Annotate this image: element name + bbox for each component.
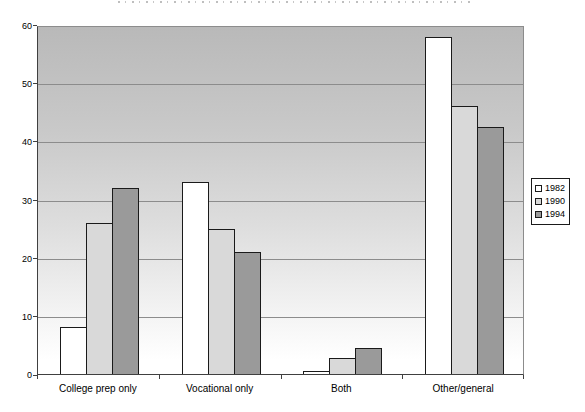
bar-1990-1 [86,223,113,374]
legend-label: 1990 [545,195,565,208]
x-category-label: College prep only [37,383,159,394]
bar-1982-2 [182,182,209,374]
bar-1990-2 [208,229,235,374]
x-tick-mark [402,375,403,379]
y-tick-label: 40 [6,137,32,147]
y-tick-mark [33,258,37,259]
y-tick-mark [33,141,37,142]
bar-1994-2 [234,252,261,374]
y-tick-label: 10 [6,312,32,322]
bar-1982-1 [60,327,87,374]
cropped-chart-title [118,1,470,3]
x-tick-mark [37,375,38,379]
plot-area [37,26,524,375]
legend: 198219901994 [531,178,570,225]
bar-1990-4 [451,106,478,374]
x-tick-mark [523,375,524,379]
bar-group-3 [282,348,404,374]
legend-item-1990: 1990 [535,195,565,208]
bar-1994-1 [112,188,139,374]
legend-item-1982: 1982 [535,182,565,195]
legend-item-1994: 1994 [535,208,565,221]
y-tick-label: 60 [6,21,32,31]
x-category-label: Both [281,383,403,394]
bar-1990-3 [329,358,356,374]
x-tick-mark [159,375,160,379]
y-tick-mark [33,83,37,84]
y-tick-mark [33,200,37,201]
bar-group-2 [160,182,282,374]
x-category-label: Vocational only [159,383,281,394]
y-tick-label: 0 [6,370,32,380]
legend-swatch-icon [535,198,542,205]
x-tick-mark [281,375,282,379]
legend-swatch-icon [535,185,542,192]
y-tick-mark [33,316,37,317]
bar-1994-3 [355,348,382,374]
bar-group-4 [403,37,525,374]
x-category-label: Other/general [402,383,524,394]
legend-swatch-icon [535,211,542,218]
bar-1994-4 [477,127,504,374]
y-tick-label: 50 [6,79,32,89]
bar-1982-3 [303,371,330,374]
y-tick-mark [33,25,37,26]
y-tick-label: 30 [6,196,32,206]
bar-chart: 0102030405060 College prep onlyVocationa… [0,0,585,412]
legend-label: 1982 [545,182,565,195]
legend-label: 1994 [545,208,565,221]
bar-1982-4 [425,37,452,374]
bar-group-1 [38,188,160,374]
y-tick-label: 20 [6,254,32,264]
